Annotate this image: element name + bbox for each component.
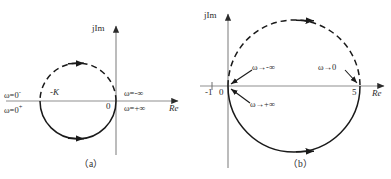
panel-b-leader-omega-zero: [345, 70, 357, 83]
nyquist-figure: jIm Re 0 -K ω=0- ω=0+ ω=-∞ ω=+∞ （a） jIm …: [0, 0, 391, 179]
panel-a-real-axis-label: Re: [169, 104, 179, 113]
panel-b-lower-arc-solid: [228, 86, 360, 152]
panel-b-real-axis-label: Re: [372, 89, 382, 98]
panel-b-origin-label: 0: [219, 88, 224, 97]
panel-a-label-omega-0-plus: ω=0+: [4, 104, 22, 114]
panel-b-tick-label-5: 5: [352, 88, 357, 97]
panel-a-lower-arc-solid: [40, 101, 116, 139]
panel-a-label-omega-0-minus: ω=0-: [4, 89, 21, 99]
panel-a-label-omega-plus-inf: ω=+∞: [124, 104, 145, 113]
panel-b-leader-omega-plus-inf: [231, 89, 250, 103]
panel-b-caption: （b）: [288, 160, 313, 170]
panel-a-point-label-minus-k: -K: [50, 88, 59, 97]
panel-b-arrow-bottom: [296, 151, 314, 152]
panel-b-upper-arc-dashed: [228, 20, 360, 86]
panel-b-label-omega-to-zero: ω→0: [318, 63, 336, 72]
panel-a-caption: （a）: [79, 160, 103, 170]
panel-a-origin-label: 0: [106, 102, 111, 111]
panel-b-leader-omega-minus-inf: [231, 70, 252, 84]
panel-b-imag-axis-label: jIm: [204, 11, 217, 20]
panel-b-arrow-top: [296, 20, 314, 21]
panel-a-imag-axis-label: jIm: [92, 24, 105, 33]
panel-a-label-omega-0-minus-sup: -: [19, 88, 21, 95]
panel-b-label-omega-to-minus-inf: ω→-∞: [252, 63, 275, 72]
panel-a-label-omega-minus-inf: ω=-∞: [124, 89, 143, 98]
panel-a-label-omega-0-plus-sup: +: [19, 103, 23, 110]
panel-b-tick-label-minus-1: -1: [205, 88, 213, 97]
panel-b-label-omega-to-plus-inf: ω→+∞: [250, 100, 275, 109]
panel-a-label-omega-0-minus-text: ω=0: [4, 90, 19, 100]
panel-a-label-omega-0-plus-text: ω=0: [4, 105, 19, 115]
